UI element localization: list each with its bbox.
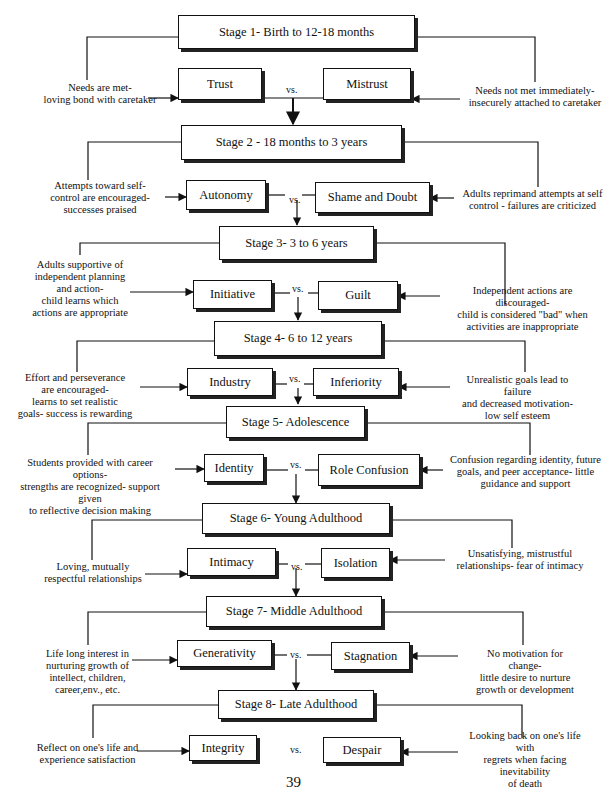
stage-7-negative-note: No motivation for change- little desire … xyxy=(460,648,590,696)
inferiority-box: Inferiority xyxy=(313,368,399,396)
stage-1-box: Stage 1- Birth to 12-18 months xyxy=(178,15,415,49)
stage-6-box: Stage 6- Young Adulthood xyxy=(202,503,390,534)
note-line: experience satisfaction xyxy=(30,754,145,766)
note-line: child learns which xyxy=(20,295,140,307)
isolation-box: Isolation xyxy=(321,548,390,578)
note-line: guidance and support xyxy=(443,478,608,490)
note-line: Effort and perseverance xyxy=(10,372,140,384)
stage-8-box: Stage 8- Late Adulthood xyxy=(218,690,374,719)
mistrust-box: Mistrust xyxy=(323,68,411,100)
vs-label: vs. xyxy=(289,373,300,384)
note-line: Needs are met- xyxy=(30,82,170,94)
stage-5-box: Stage 5- Adolescence xyxy=(226,406,365,438)
note-line: of death xyxy=(460,778,590,789)
note-line: No motivation for xyxy=(460,648,590,660)
autonomy-box: Autonomy xyxy=(186,180,266,210)
note-line: independent planning xyxy=(20,271,140,283)
industry-box: Industry xyxy=(187,368,273,396)
stage-5-negative-note: Confusion regarding identity, future goa… xyxy=(443,454,608,490)
intimacy-box: Intimacy xyxy=(187,548,276,576)
note-line: career,env., etc. xyxy=(40,684,135,696)
stage-7-positive-note: Life long interest in nurturing growth o… xyxy=(40,648,135,696)
stage-2-box: Stage 2 - 18 months to 3 years xyxy=(181,125,402,160)
stage-4-positive-note: Effort and perseverance are encouraged- … xyxy=(10,372,140,420)
note-line: nurturing growth of xyxy=(40,660,135,672)
stage-3-positive-note: Adults supportive of independent plannin… xyxy=(20,259,140,319)
note-line: successes praised xyxy=(35,204,165,216)
note-line: Unsatisfying, mistrustful xyxy=(440,548,600,560)
note-line: insecurely attached to caretaker xyxy=(460,97,610,109)
note-line: Looking back on one's life xyxy=(460,730,590,742)
stage-1-negative-note: Needs not met immediately- insecurely at… xyxy=(460,85,610,109)
trust-box: Trust xyxy=(178,68,262,100)
stage-6-positive-note: Loving, mutually respectful relationship… xyxy=(38,561,148,585)
note-line: failure xyxy=(450,386,585,398)
despair-box: Despair xyxy=(323,737,401,763)
note-line: to reflective decision making xyxy=(5,505,175,517)
stage-7-box: Stage 7- Middle Adulthood xyxy=(206,596,382,627)
note-line: loving bond with caretaker xyxy=(30,94,170,106)
note-line: learns to set realistic xyxy=(10,396,140,408)
note-line: Life long interest in xyxy=(40,648,135,660)
stage-8-negative-note: Looking back on one's life with regrets … xyxy=(460,730,590,789)
vs-label: vs. xyxy=(290,459,301,470)
note-line: are encouraged- xyxy=(10,384,140,396)
note-line: options- xyxy=(5,469,175,481)
note-line: regrets when facing xyxy=(460,754,590,766)
stage-4-box: Stage 4- 6 to 12 years xyxy=(214,321,382,356)
stage-8-positive-note: Reflect on one's life and experience sat… xyxy=(30,742,145,766)
note-line: control are encouraged- xyxy=(35,192,165,204)
note-line: Reflect on one's life and xyxy=(30,742,145,754)
stage-3-negative-note: Independent actions are discouraged- chi… xyxy=(440,285,605,333)
note-line: actions are appropriate xyxy=(20,307,140,319)
identity-box: Identity xyxy=(204,454,264,482)
stage-6-negative-note: Unsatisfying, mistrustful relationships-… xyxy=(440,548,600,572)
note-line: Attempts toward self- xyxy=(35,180,165,192)
vs-label: vs. xyxy=(290,649,301,660)
note-line: Students provided with career xyxy=(5,457,175,469)
note-line: discouraged- xyxy=(440,297,605,309)
stage-2-positive-note: Attempts toward self- control are encour… xyxy=(35,180,165,216)
note-line: relationships- fear of intimacy xyxy=(440,560,600,572)
note-line: Adults reprimand attempts at self xyxy=(455,188,610,200)
role-confusion-box: Role Confusion xyxy=(318,454,420,486)
note-line: goals, and peer acceptance- little xyxy=(443,466,608,478)
page-number: 39 xyxy=(286,774,301,789)
note-line: given xyxy=(5,493,175,505)
stage-4-negative-note: Unrealistic goals lead to failure and de… xyxy=(450,374,585,422)
vs-label: vs. xyxy=(290,744,301,755)
note-line: growth or development xyxy=(460,684,590,696)
note-line: intellect, children, xyxy=(40,672,135,684)
generativity-box: Generativity xyxy=(177,640,272,667)
stage-3-box: Stage 3- 3 to 6 years xyxy=(219,226,374,260)
note-line: Independent actions are xyxy=(440,285,605,297)
note-line: child is considered "bad" when xyxy=(440,309,605,321)
vs-label: vs. xyxy=(291,561,302,572)
guilt-box: Guilt xyxy=(318,281,398,310)
vs-label: vs. xyxy=(292,283,303,294)
stage-2-negative-note: Adults reprimand attempts at self contro… xyxy=(455,188,610,212)
note-line: with xyxy=(460,742,590,754)
note-line: goals- success is rewarding xyxy=(10,408,140,420)
shame-and-doubt-box: Shame and Doubt xyxy=(315,182,430,213)
integrity-box: Integrity xyxy=(189,735,257,761)
stage-5-positive-note: Students provided with career options- s… xyxy=(5,457,175,517)
note-line: Loving, mutually xyxy=(38,561,148,573)
note-line: and action- xyxy=(20,283,140,295)
note-line: and decreased motivation- xyxy=(450,398,585,410)
note-line: little desire to nurture xyxy=(460,672,590,684)
note-line: Adults supportive of xyxy=(20,259,140,271)
note-line: control - failures are criticized xyxy=(455,200,610,212)
vs-label: vs. xyxy=(286,84,297,95)
note-line: Unrealistic goals lead to xyxy=(450,374,585,386)
note-line: respectful relationships xyxy=(38,573,148,585)
note-line: change- xyxy=(460,660,590,672)
initiative-box: Initiative xyxy=(193,280,272,309)
note-line: Needs not met immediately- xyxy=(460,85,610,97)
note-line: strengths are recognized- support xyxy=(5,481,175,493)
note-line: activities are inappropriate xyxy=(440,321,605,333)
note-line: Confusion regarding identity, future xyxy=(443,454,608,466)
vs-label: vs. xyxy=(289,194,300,205)
stage-1-positive-note: Needs are met- loving bond with caretake… xyxy=(30,82,170,106)
note-line: inevitability xyxy=(460,766,590,778)
